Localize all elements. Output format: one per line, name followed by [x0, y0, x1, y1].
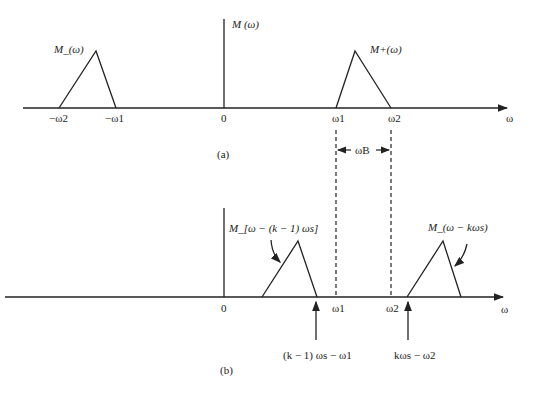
bandwidth-indicator: ωB	[338, 144, 389, 156]
neg-spectrum-label: M_(ω)	[53, 43, 84, 56]
x-axis-label-a: ω	[506, 112, 513, 124]
x-axis-label-b: ω	[501, 303, 508, 315]
origin-label-a: 0	[221, 112, 227, 124]
left-spectrum-label: M_[ω − (k − 1) ωs]	[228, 222, 318, 235]
neg-spectrum-triangle	[59, 51, 116, 108]
tick-neg-w1: −ω1	[105, 112, 124, 124]
panel-b: M_[ω − (k − 1) ωs] M_(ω − kωs) 0 ω1 ω2 ω…	[5, 208, 508, 377]
left-curved-arrow	[271, 240, 280, 262]
tick-w1-b: ω1	[332, 302, 345, 314]
tick-neg-w2: −ω2	[49, 112, 68, 124]
origin-label-b: 0	[221, 302, 227, 314]
left-shifted-triangle	[262, 241, 317, 297]
tick-w1-a: ω1	[332, 112, 345, 124]
right-spectrum-label: M_(ω − kωs)	[427, 221, 488, 234]
right-shifted-triangle	[407, 241, 461, 297]
pos-spectrum-label: M+(ω)	[369, 43, 402, 56]
tick-w2-b: ω2	[386, 302, 399, 314]
caption-a: (a)	[217, 148, 230, 161]
left-edge-label: (k − 1) ωs − ω1	[283, 349, 352, 362]
pos-spectrum-triangle	[336, 51, 391, 108]
tick-w2-a: ω2	[388, 112, 401, 124]
bandwidth-label: ωB	[355, 144, 370, 156]
y-axis-label-a: M (ω)	[231, 18, 259, 31]
right-edge-label: kωs − ω2	[394, 349, 435, 361]
bandpass-sampling-diagram: M (ω) M_(ω) M+(ω) 0 −ω2 −ω1 ω1 ω2 ω (a) …	[0, 0, 533, 395]
right-curved-arrow	[455, 244, 467, 266]
caption-b: (b)	[220, 364, 233, 377]
panel-a: M (ω) M_(ω) M+(ω) 0 −ω2 −ω1 ω1 ω2 ω (a)	[23, 18, 513, 161]
